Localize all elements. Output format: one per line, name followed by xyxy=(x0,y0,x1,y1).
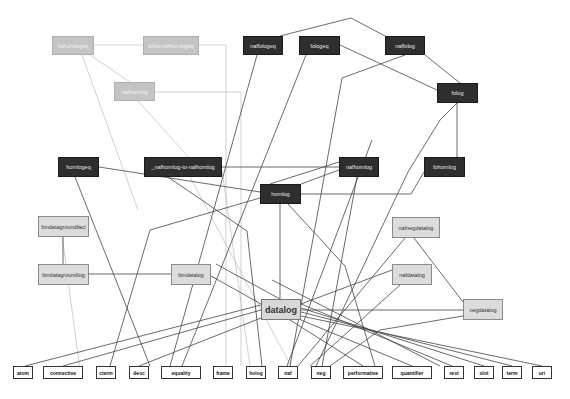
node-fohornlogeqlogeq[interactable]: fohornlofhornlogeq xyxy=(143,36,199,55)
node-fologeq[interactable]: fologeq xyxy=(299,36,340,55)
node-datalog[interactable]: datalog xyxy=(261,299,301,320)
node-label: hornlogeq xyxy=(66,164,90,170)
node-label: frame xyxy=(216,370,230,376)
node-label: performative xyxy=(348,370,378,376)
edge xyxy=(270,162,339,184)
edge xyxy=(139,318,261,366)
node-label: nafhornlog xyxy=(122,89,148,95)
node-negdatalog[interactable]: negdatalog xyxy=(463,299,503,320)
node-frame[interactable]: frame xyxy=(213,366,233,379)
node-connective[interactable]: connective xyxy=(43,366,83,379)
node-label: equality xyxy=(172,370,191,376)
node-label: slot xyxy=(480,370,489,376)
node-slot[interactable]: slot xyxy=(474,366,494,379)
node-label: bindatalog xyxy=(178,272,203,278)
node-naffologeq[interactable]: naffologeq xyxy=(243,36,283,55)
node-neg[interactable]: neg xyxy=(311,366,331,379)
edge xyxy=(90,55,130,82)
node-label: term xyxy=(507,370,518,376)
node-label: _nafhornlog-to-nafhornlog xyxy=(151,164,214,170)
node-label: desc xyxy=(133,370,144,376)
edge xyxy=(301,316,542,366)
node-holog[interactable]: holog xyxy=(246,366,266,379)
node-nafnegdatalog[interactable]: nafnegdatalog xyxy=(392,217,440,238)
node-label: negdatalog xyxy=(469,307,496,313)
node-naffolog[interactable]: naffolog xyxy=(385,36,425,55)
node-performative[interactable]: performative xyxy=(343,366,383,379)
node-label: connective xyxy=(50,370,76,376)
node-label: nafhornlog xyxy=(346,164,372,170)
node-label: hornlog xyxy=(271,191,289,197)
edge xyxy=(82,55,138,210)
node-label: naf xyxy=(284,370,292,376)
node-hohornlogeq[interactable]: hohornlogeq xyxy=(52,36,94,55)
node-label: fohornlofhornlogeq xyxy=(148,43,194,49)
edge xyxy=(322,177,357,366)
node-label: bindatagroundfact xyxy=(41,224,85,230)
edge xyxy=(301,270,392,304)
node-hornlogeq[interactable]: hornlogeq xyxy=(58,157,99,177)
node-label: naffolog xyxy=(395,43,414,49)
node-folog[interactable]: folog xyxy=(437,83,478,103)
node-desc[interactable]: desc xyxy=(129,366,149,379)
node-term[interactable]: term xyxy=(502,366,522,379)
node-nafhornlog[interactable]: nafhornlog xyxy=(114,82,155,101)
node-label: datalog xyxy=(265,305,297,315)
node-label: fohornlog xyxy=(433,164,456,170)
node-label: fologeq xyxy=(310,43,328,49)
node-hornlog[interactable]: hornlog xyxy=(260,184,301,204)
node-label: neg xyxy=(317,370,326,376)
edge xyxy=(280,18,385,36)
node-quantifier[interactable]: quantifier xyxy=(392,366,432,379)
node-nafhornlog-to-nafhornlog[interactable]: _nafhornlog-to-nafhornlog xyxy=(144,157,222,177)
node-label: quantifier xyxy=(401,370,424,376)
node-naf[interactable]: naf xyxy=(278,366,298,379)
node-nafdatalog[interactable]: nafdatalog xyxy=(392,264,432,285)
edge xyxy=(272,280,440,366)
edge xyxy=(301,312,512,366)
node-label: nafdatalog xyxy=(399,272,425,278)
edge xyxy=(25,305,261,366)
edge xyxy=(63,310,261,366)
node-uri[interactable]: uri xyxy=(532,366,552,379)
node-bindatalog[interactable]: bindatalog xyxy=(171,264,211,285)
node-label: holog xyxy=(249,370,263,376)
edge xyxy=(290,55,405,366)
node-label: naffologeq xyxy=(250,43,276,49)
edge xyxy=(425,55,460,83)
node-label: hohornlogeq xyxy=(58,43,89,49)
node-label: nafnegdatalog xyxy=(399,225,434,231)
node-nafhornlog2[interactable]: nafhornlog xyxy=(339,157,379,177)
node-fohornlog[interactable]: fohornlog xyxy=(424,157,465,177)
node-label: cterm xyxy=(99,370,113,376)
node-bindatagroundlog[interactable]: bindatagroundlog xyxy=(38,264,89,285)
edge xyxy=(298,238,405,366)
edge xyxy=(216,264,280,299)
node-label: atom xyxy=(17,370,29,376)
edge xyxy=(288,204,375,366)
node-label: folog xyxy=(452,90,464,96)
node-bindatagroundfact[interactable]: bindatagroundfact xyxy=(38,216,89,237)
node-label: bindatagroundlog xyxy=(42,272,85,278)
node-atom[interactable]: atom xyxy=(13,366,33,379)
node-label: uri xyxy=(539,370,545,376)
node-cterm[interactable]: cterm xyxy=(96,366,116,379)
node-rest[interactable]: rest xyxy=(444,366,464,379)
node-equality[interactable]: equality xyxy=(161,366,201,379)
node-label: rest xyxy=(449,370,458,376)
